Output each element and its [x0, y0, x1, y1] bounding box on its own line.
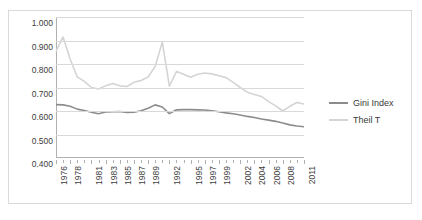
x-tick-label: 1989: [152, 166, 161, 185]
series-line: [56, 105, 304, 127]
x-tick-minor: [290, 160, 291, 163]
x-tick: [91, 160, 92, 164]
x-tick-minor: [84, 160, 85, 163]
x-tick-minor: [276, 160, 277, 163]
legend-item[interactable]: Theil T: [329, 111, 411, 128]
y-tick-label: 1.000: [13, 19, 53, 28]
x-tick-minor: [198, 160, 199, 163]
x-tick: [70, 160, 71, 164]
x-tick: [134, 160, 135, 164]
x-tick: [269, 160, 270, 164]
y-tick-label: 0.900: [13, 42, 53, 51]
y-tick-label: 0.500: [13, 136, 53, 145]
x-tick-minor: [233, 160, 234, 163]
x-tick: [283, 160, 284, 164]
y-tick-label: 0.400: [13, 160, 53, 169]
x-tick-minor: [127, 160, 128, 163]
x-tick-minor: [261, 160, 262, 163]
x-tick-minor: [63, 160, 64, 163]
x-tick-minor: [184, 160, 185, 163]
x-tick-label: 1987: [138, 166, 147, 185]
x-tick: [148, 160, 149, 164]
y-tick-label: 0.700: [13, 89, 53, 98]
x-tick: [169, 160, 170, 164]
y-tick-label: 0.800: [13, 66, 53, 75]
x-tick: [106, 160, 107, 164]
x-tick-minor: [141, 160, 142, 163]
x-tick-minor: [155, 160, 156, 163]
chart-legend: Gini IndexTheil T: [329, 94, 411, 128]
x-tick-minor: [162, 160, 163, 163]
x-axis-labels: 1976197819811983198519871989199219951997…: [56, 160, 304, 200]
x-tick-minor: [176, 160, 177, 163]
x-tick: [191, 160, 192, 164]
x-tick-minor: [99, 160, 100, 163]
x-tick-label: 1999: [223, 166, 232, 185]
x-tick-label: 1983: [110, 166, 119, 185]
gridline: [56, 41, 304, 42]
x-tick-label: 1992: [173, 166, 182, 185]
x-tick-minor: [212, 160, 213, 163]
x-tick-label: 1985: [124, 166, 133, 185]
chart-frame: 0.4000.5000.6000.7000.8000.9001.000 1976…: [8, 10, 412, 204]
x-tick: [304, 160, 305, 164]
legend-label: Gini Index: [353, 98, 394, 108]
legend-swatch-icon: [329, 119, 348, 121]
gridline: [56, 64, 304, 65]
x-tick-minor: [113, 160, 114, 163]
x-tick-minor: [247, 160, 248, 163]
gridline: [56, 88, 304, 89]
x-tick: [240, 160, 241, 164]
legend-item[interactable]: Gini Index: [329, 94, 411, 111]
x-tick-label: 1981: [95, 166, 104, 185]
x-tick-minor: [226, 160, 227, 163]
x-tick-label: 1997: [209, 166, 218, 185]
x-tick-minor: [297, 160, 298, 163]
x-tick-label: 2006: [273, 166, 282, 185]
chart-plot-wrapper: 0.4000.5000.6000.7000.8000.9001.000 1976…: [9, 11, 413, 205]
x-tick-label: 1995: [195, 166, 204, 185]
x-tick: [254, 160, 255, 164]
x-tick-label: 2002: [244, 166, 253, 185]
x-tick-label: 1976: [60, 166, 69, 185]
gridline: [56, 17, 304, 18]
y-axis-labels: 0.4000.5000.6000.7000.8000.9001.000: [13, 17, 53, 158]
plot-area: [56, 17, 304, 158]
legend-label: Theil T: [353, 115, 380, 125]
x-tick-label: 2004: [258, 166, 267, 185]
gridline: [56, 111, 304, 112]
x-tick-label: 1978: [74, 166, 83, 185]
x-tick: [56, 160, 57, 164]
x-tick: [120, 160, 121, 164]
legend-swatch-icon: [329, 102, 348, 104]
y-tick-label: 0.600: [13, 113, 53, 122]
x-tick-label: 2011: [308, 166, 317, 184]
series-line: [56, 37, 304, 111]
x-tick: [205, 160, 206, 164]
x-tick: [219, 160, 220, 164]
gridline: [56, 135, 304, 136]
x-tick-label: 2008: [287, 166, 296, 185]
x-tick-minor: [77, 160, 78, 163]
